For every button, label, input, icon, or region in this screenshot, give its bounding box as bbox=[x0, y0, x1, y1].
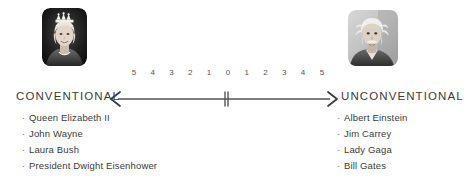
examples-conventional: ·Queen Elizabeth II ·John Wayne ·Laura B… bbox=[22, 110, 157, 174]
list-item: ·Laura Bush bbox=[22, 142, 157, 158]
list-item: ·Jim Carrey bbox=[337, 126, 408, 142]
list-item: ·John Wayne bbox=[22, 126, 157, 142]
scale-tick-center: 0 bbox=[224, 66, 232, 79]
list-item-label: President Dwight Eisenhower bbox=[29, 160, 157, 171]
scale-tick: 2 bbox=[262, 66, 270, 79]
list-item-label: John Wayne bbox=[29, 128, 83, 139]
list-item-label: Albert Einstein bbox=[344, 112, 408, 123]
scale-tick: 5 bbox=[130, 66, 138, 79]
scale-tick: 3 bbox=[280, 66, 288, 79]
bullet-icon: · bbox=[337, 158, 344, 174]
bullet-icon: · bbox=[22, 110, 29, 126]
list-item-label: Lady Gaga bbox=[344, 144, 392, 155]
bullet-icon: · bbox=[22, 142, 29, 158]
list-item: ·Lady Gaga bbox=[337, 142, 408, 158]
list-item-label: Jim Carrey bbox=[344, 128, 391, 139]
portrait-conventional bbox=[42, 8, 87, 66]
scale-tick: 4 bbox=[299, 66, 307, 79]
scale-tick: 3 bbox=[168, 66, 176, 79]
bullet-icon: · bbox=[337, 126, 344, 142]
list-item-label: Bill Gates bbox=[344, 160, 386, 171]
axis-line-graphic bbox=[108, 90, 340, 108]
scale-tick: 2 bbox=[186, 66, 194, 79]
list-item: ·Bill Gates bbox=[337, 158, 408, 174]
bullet-icon: · bbox=[337, 110, 344, 126]
scale-tick: 4 bbox=[149, 66, 157, 79]
list-item: ·President Dwight Eisenhower bbox=[22, 158, 157, 174]
scale-tick-labels: 5 4 3 2 1 0 1 2 3 4 5 bbox=[130, 66, 326, 79]
bullet-icon: · bbox=[22, 158, 29, 174]
bullet-icon: · bbox=[337, 142, 344, 158]
scale-tick: 1 bbox=[205, 66, 213, 79]
scale-tick: 5 bbox=[318, 66, 326, 79]
examples-unconventional: ·Albert Einstein ·Jim Carrey ·Lady Gaga … bbox=[337, 110, 408, 174]
queen-portrait-icon bbox=[42, 8, 87, 66]
bullet-icon: · bbox=[22, 126, 29, 142]
list-item: ·Albert Einstein bbox=[337, 110, 408, 126]
scale-tick: 1 bbox=[243, 66, 251, 79]
pole-label-conventional: CONVENTIONAL bbox=[16, 89, 120, 103]
list-item: ·Queen Elizabeth II bbox=[22, 110, 157, 126]
bipolar-axis bbox=[108, 90, 340, 108]
portrait-unconventional bbox=[348, 10, 398, 66]
einstein-portrait-icon bbox=[348, 10, 398, 66]
list-item-label: Queen Elizabeth II bbox=[29, 112, 110, 123]
list-item-label: Laura Bush bbox=[29, 144, 79, 155]
pole-label-unconventional: UNCONVENTIONAL bbox=[341, 89, 464, 103]
